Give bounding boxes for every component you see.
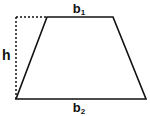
trapezoid-shape	[16, 17, 146, 99]
top-base-label: b1	[73, 1, 86, 17]
height-label: h	[2, 47, 11, 63]
bottom-base-label: b2	[73, 100, 86, 116]
trapezoid-diagram: b1 b2 h	[0, 0, 150, 116]
